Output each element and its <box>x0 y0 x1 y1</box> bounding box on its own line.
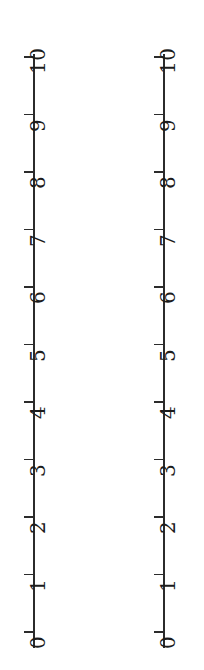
axis-tick-label: 1 <box>28 558 48 592</box>
axis-tick-label: 5 <box>28 328 48 362</box>
axis-tick-label: 10 <box>158 40 178 74</box>
right-number-line-axis: 012345678910 <box>144 0 204 670</box>
axis-tick-label: 0 <box>28 615 48 649</box>
axis-tick-label: 5 <box>158 328 178 362</box>
axis-tick-label: 9 <box>28 98 48 132</box>
axis-tick-label: 1 <box>158 558 178 592</box>
axis-tick-label: 10 <box>28 40 48 74</box>
axis-tick-label: 2 <box>158 500 178 534</box>
axis-tick-label: 3 <box>28 443 48 477</box>
left-number-line-axis: 012345678910 <box>14 0 74 670</box>
axis-tick-label: 4 <box>28 385 48 419</box>
axis-tick-label: 8 <box>28 155 48 189</box>
axis-tick-label: 9 <box>158 98 178 132</box>
figure-canvas: 012345678910 012345678910 <box>0 0 204 670</box>
axis-tick-label: 6 <box>158 270 178 304</box>
axis-tick-label: 8 <box>158 155 178 189</box>
axis-tick-label: 6 <box>28 270 48 304</box>
axis-tick-label: 4 <box>158 385 178 419</box>
axis-tick-label: 7 <box>158 213 178 247</box>
axis-tick-label: 0 <box>158 615 178 649</box>
axis-tick-label: 7 <box>28 213 48 247</box>
axis-tick-label: 3 <box>158 443 178 477</box>
axis-tick-label: 2 <box>28 500 48 534</box>
